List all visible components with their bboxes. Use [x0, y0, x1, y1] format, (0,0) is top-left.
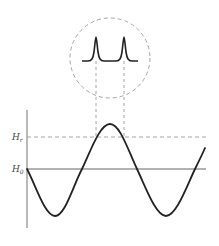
diagram-canvas: Hr H0	[0, 0, 219, 246]
h-0-label: H0	[11, 164, 24, 175]
sine-wave	[27, 124, 205, 216]
inset-circle	[70, 18, 150, 98]
resonance-peaks	[82, 37, 138, 61]
h-r-label: Hr	[11, 132, 24, 143]
